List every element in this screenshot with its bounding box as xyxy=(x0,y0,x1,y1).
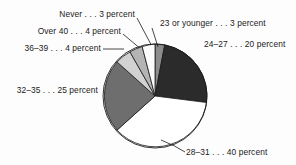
pie-slice-24-27 xyxy=(155,45,207,103)
pie-label-28-31: 28–31 . . . 40 percent xyxy=(186,148,267,156)
pie-chart-figure: Never . . . 3 percent Over 40 . . . 4 pe… xyxy=(0,0,296,165)
pie-label-over-40: Over 40 . . . 4 percent xyxy=(38,27,121,35)
leader-line-never xyxy=(137,18,151,45)
pie-label-36-39: 36–39 . . . 4 percent xyxy=(24,44,101,52)
pie-label-32-35: 32–35 . . . 25 percent xyxy=(17,86,98,94)
pie-label-24-27: 24–27 . . . 20 percent xyxy=(204,40,285,48)
pie-label-23-or-younger: 23 or younger . . . 3 percent xyxy=(160,19,266,27)
leader-line-over-40 xyxy=(123,34,139,48)
pie-label-never: Never . . . 3 percent xyxy=(59,10,135,18)
